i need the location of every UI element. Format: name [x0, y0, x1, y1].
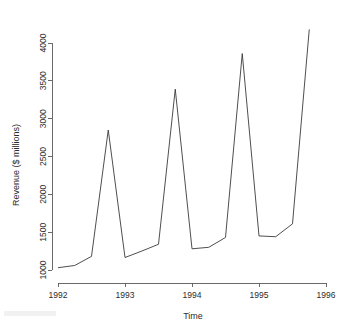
y-tick-label: 4000 [38, 33, 48, 52]
revenue-time-series-chart: 1000150020002500300035004000 19921993199… [0, 0, 347, 325]
x-axis-title: Time [183, 311, 203, 321]
watermark-bar [4, 311, 56, 316]
y-tick-label: 1500 [38, 222, 48, 241]
x-tick-label: 1992 [49, 290, 68, 300]
x-tick-label: 1993 [116, 290, 135, 300]
y-tick-label: 1000 [38, 260, 48, 279]
x-tick-label: 1994 [183, 290, 202, 300]
y-tick-label: 2000 [38, 185, 48, 204]
chart-plot-area: 1000150020002500300035004000 19921993199… [0, 0, 347, 325]
y-tick-label: 3500 [38, 71, 48, 90]
y-tick-label: 3000 [38, 109, 48, 128]
x-tick-label: 1996 [317, 290, 336, 300]
x-tick-label: 1995 [250, 290, 269, 300]
y-axis-title: Revenue ($ millions) [11, 124, 21, 206]
y-tick-label: 2500 [38, 147, 48, 166]
